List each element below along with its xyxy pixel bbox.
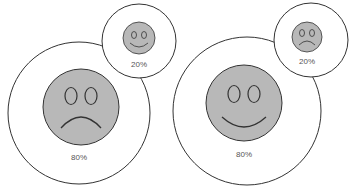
right-inset-label: 20% (287, 57, 327, 66)
left-inset-label: 20% (119, 60, 159, 69)
sad-face-icon (292, 22, 322, 52)
smiley-diagrams (0, 0, 349, 190)
happy-face-icon (206, 65, 282, 141)
sad-face-icon (43, 69, 119, 145)
left-main-label: 80% (59, 153, 99, 162)
happy-face-icon (123, 22, 155, 54)
right-main-label: 80% (224, 150, 264, 159)
